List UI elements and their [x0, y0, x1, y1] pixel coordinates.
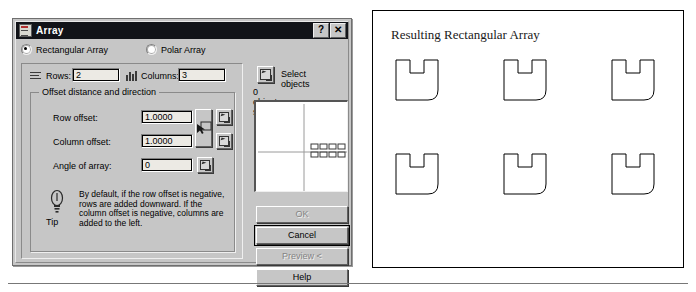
pick-angle-icon — [200, 160, 210, 170]
angle-of-array-label: Angle of array: — [53, 161, 112, 171]
titlebar-buttons: ? ✕ — [313, 23, 346, 38]
rectangular-array-panel: Rows: 2 Columns: 3 Offset distance and d… — [21, 63, 243, 259]
offset-distance-group: Offset distance and direction Row offset… — [30, 92, 235, 252]
u-slot-bracket — [611, 59, 655, 101]
u-slot-bracket — [395, 153, 439, 195]
array-preview — [254, 100, 348, 192]
dialog-body: Rectangular Array Polar Array Rows: 2 Co… — [17, 41, 347, 261]
help-icon[interactable]: ? — [313, 23, 329, 38]
pick-point-icon — [219, 112, 229, 122]
array-dialog: Array ? ✕ Rectangular Array Polar Array … — [12, 18, 352, 266]
pick-both-offsets-button[interactable] — [195, 109, 212, 147]
row-offset-input[interactable]: 1.0000 — [141, 110, 193, 124]
bottom-divider — [8, 283, 688, 284]
select-objects-icon — [260, 69, 271, 80]
columns-label: Columns: — [141, 71, 179, 81]
radio-dot-icon — [146, 44, 157, 55]
rows-label: Rows: — [46, 71, 71, 81]
radio-polar-label: Polar Array — [161, 45, 206, 55]
array-preview-graphic — [256, 102, 348, 192]
rows-input[interactable]: 2 — [72, 68, 120, 82]
columns-input[interactable]: 3 — [178, 68, 226, 82]
radio-rectangular-label: Rectangular Array — [36, 45, 108, 55]
preview-button[interactable]: Preview < — [256, 248, 348, 265]
u-slot-bracket — [611, 153, 655, 195]
u-slot-bracket — [503, 59, 547, 101]
radio-polar-array[interactable]: Polar Array — [146, 44, 206, 55]
u-slot-bracket-outline — [395, 153, 439, 195]
u-slot-bracket — [395, 59, 439, 101]
tip-label: Tip — [46, 217, 58, 227]
offset-group-title: Offset distance and direction — [39, 87, 159, 97]
u-slot-bracket-outline — [503, 59, 547, 101]
dialog-titlebar[interactable]: Array ? ✕ — [16, 22, 348, 39]
column-offset-input[interactable]: 1.0000 — [141, 134, 193, 148]
row-offset-label: Row offset: — [53, 113, 98, 123]
select-objects-button[interactable] — [257, 66, 274, 83]
u-slot-bracket-outline — [611, 59, 655, 101]
radio-dot-icon — [21, 44, 32, 55]
angle-of-array-input[interactable]: 0 — [141, 158, 193, 172]
pick-both-offsets-icon — [196, 121, 212, 135]
drawing-caption: Resulting Rectangular Array — [391, 27, 540, 43]
resulting-array-panel: Resulting Rectangular Array — [372, 10, 684, 268]
columns-icon — [126, 71, 137, 81]
pick-angle-button[interactable] — [197, 157, 213, 173]
cancel-button[interactable]: Cancel — [256, 227, 348, 244]
array-window-icon — [19, 24, 32, 37]
rows-icon — [30, 72, 41, 81]
pick-column-offset-button[interactable] — [216, 133, 232, 149]
close-icon[interactable]: ✕ — [330, 23, 346, 38]
select-objects-label: Select objects — [281, 69, 310, 89]
column-offset-label: Column offset: — [53, 137, 111, 147]
lightbulb-icon — [49, 189, 65, 217]
pick-point-icon — [219, 136, 229, 146]
u-slot-bracket-outline — [611, 153, 655, 195]
dialog-title: Array — [36, 22, 64, 39]
radio-rectangular-array[interactable]: Rectangular Array — [21, 44, 108, 55]
u-slot-bracket-outline — [503, 153, 547, 195]
u-slot-bracket-outline — [395, 59, 439, 101]
u-slot-bracket — [503, 153, 547, 195]
pick-row-offset-button[interactable] — [216, 109, 232, 125]
array-type-radio-group: Rectangular Array Polar Array — [21, 44, 246, 60]
ok-button[interactable]: OK — [256, 206, 348, 223]
tip-text: By default, if the row offset is negativ… — [79, 190, 227, 228]
